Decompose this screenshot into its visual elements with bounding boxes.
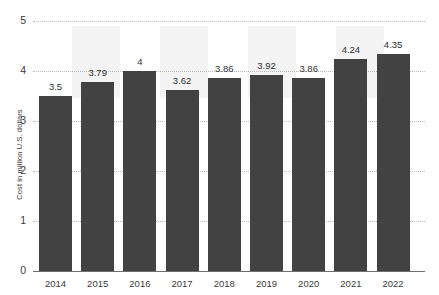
bar-value-label: 3.92 xyxy=(244,61,289,71)
x-axis-tick-label: 2022 xyxy=(371,279,416,289)
plot-area: Cost in million U.S. dollars 012345 3.53… xyxy=(0,0,439,295)
bar xyxy=(208,78,241,271)
x-axis-tick-label: 2015 xyxy=(75,279,120,289)
x-axis-tick-label: 2019 xyxy=(244,279,289,289)
bar-value-label: 4 xyxy=(117,57,162,67)
bar xyxy=(292,78,325,271)
bar-value-label: 4.35 xyxy=(371,40,416,50)
x-axis-line xyxy=(33,271,425,272)
bar-value-label: 3.86 xyxy=(286,64,331,74)
bar-value-label: 3.86 xyxy=(202,64,247,74)
bar xyxy=(377,54,410,272)
gridline xyxy=(33,21,425,22)
y-axis-title: Cost in million U.S. dollars xyxy=(15,80,24,230)
y-axis-tick-label: 1 xyxy=(8,215,26,226)
y-axis-tick-label: 2 xyxy=(8,165,26,176)
bar-value-label: 3.62 xyxy=(160,76,205,86)
y-axis-tick-label: 0 xyxy=(8,265,26,276)
x-axis-tick-label: 2017 xyxy=(160,279,205,289)
bar-chart: Cost in million U.S. dollars 012345 3.53… xyxy=(0,0,439,295)
bar xyxy=(250,75,283,271)
bar-value-label: 4.24 xyxy=(328,45,373,55)
bar xyxy=(39,96,72,271)
bar xyxy=(334,59,367,271)
y-axis-tick-label: 3 xyxy=(8,115,26,126)
x-axis-tick-label: 2016 xyxy=(117,279,162,289)
y-axis-tick-label: 4 xyxy=(8,65,26,76)
bar xyxy=(123,71,156,271)
x-axis-tick-label: 2021 xyxy=(328,279,373,289)
bar-value-label: 3.79 xyxy=(75,68,120,78)
bar xyxy=(166,90,199,271)
x-axis-tick-label: 2018 xyxy=(202,279,247,289)
x-axis-tick-label: 2014 xyxy=(33,279,78,289)
bar-value-label: 3.5 xyxy=(33,82,78,92)
bar xyxy=(81,82,114,272)
y-axis-tick-label: 5 xyxy=(8,15,26,26)
x-axis-tick-label: 2020 xyxy=(286,279,331,289)
